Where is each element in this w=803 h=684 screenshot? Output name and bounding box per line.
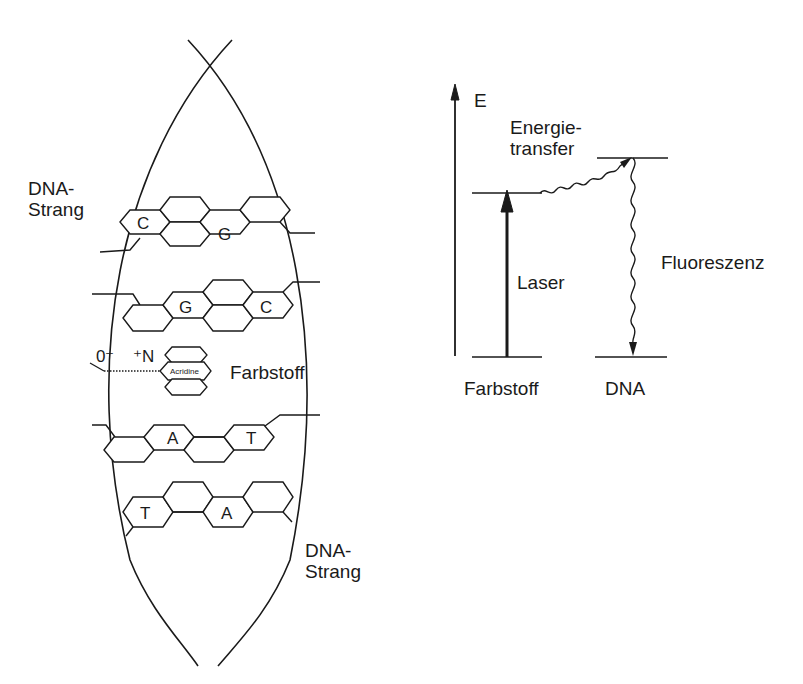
base-pair-GC — [92, 280, 320, 331]
base-A2: A — [221, 504, 233, 523]
acceptor-label: DNA — [605, 378, 645, 399]
acridine-label: Acridine — [170, 367, 199, 376]
base-G2: G — [179, 298, 192, 317]
dye-label: Farbstoff — [230, 362, 305, 383]
fluorescence-arrowhead — [629, 342, 637, 356]
base-T2: T — [140, 504, 150, 523]
strand-label-bottom-line2: Strang — [305, 561, 361, 582]
energy-transfer-label: Energie- transfer — [510, 117, 582, 159]
base-A: A — [167, 429, 179, 448]
fluorescence-label: Fluoreszenz — [661, 252, 765, 273]
energy-transfer-wave — [540, 160, 628, 193]
base-pair-AT — [92, 415, 320, 462]
donor-label: Farbstoff — [464, 378, 539, 399]
laser-label: Laser — [517, 272, 565, 293]
diagram-canvas: C G G C 0⁻ ⁺N Acridine A T — [0, 0, 803, 684]
base-pair-CG — [100, 197, 315, 252]
strand-label-bottom-line1: DNA- — [305, 540, 361, 561]
base-C2: C — [260, 298, 272, 317]
energy-transfer-line2: transfer — [510, 138, 582, 159]
strand-label-top: DNA- Strang — [28, 178, 84, 220]
fluorescence-wave — [631, 158, 635, 342]
cation-label: ⁺N — [133, 347, 154, 366]
energy-axis-arrowhead — [451, 84, 459, 100]
anion-label: 0⁻ — [96, 347, 114, 366]
base-G: G — [218, 225, 231, 244]
energy-axis-label: E — [474, 90, 487, 111]
strand-label-top-line2: Strang — [28, 199, 84, 220]
base-C: C — [137, 214, 149, 233]
energy-transfer-line1: Energie- — [510, 117, 582, 138]
strand-label-bottom: DNA- Strang — [305, 540, 361, 582]
strand-label-top-line1: DNA- — [28, 178, 84, 199]
base-T: T — [246, 429, 256, 448]
